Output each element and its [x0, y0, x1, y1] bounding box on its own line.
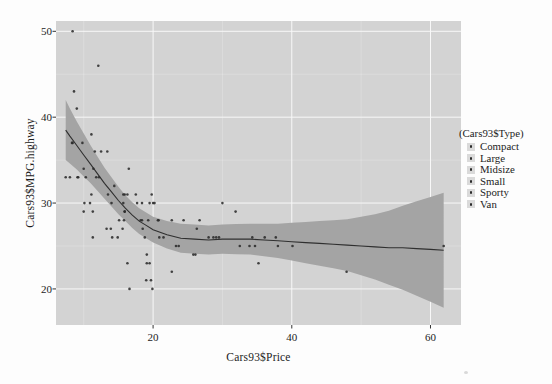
data-point: [158, 236, 161, 239]
data-point: [118, 219, 121, 222]
legend-item-label: Van: [480, 199, 497, 211]
data-point: [90, 133, 93, 136]
legend: (Cars93$Type) CompactLargeMidsizeSmallSp…: [459, 127, 551, 210]
data-point: [218, 236, 221, 239]
data-point: [98, 176, 101, 179]
data-point: [139, 219, 142, 222]
data-point: [263, 236, 266, 239]
point-key-icon: [470, 191, 473, 194]
data-point: [110, 228, 113, 231]
legend-items: CompactLargeMidsizeSmallSportyVan: [467, 141, 551, 210]
legend-key-box: [467, 189, 475, 197]
data-point: [116, 236, 119, 239]
point-key-icon: [470, 145, 473, 148]
data-point: [239, 245, 242, 248]
data-point: [157, 219, 160, 222]
legend-key-box: [467, 177, 475, 185]
data-point: [89, 202, 92, 205]
x-axis-title: Cars93$Price: [56, 351, 461, 363]
point-key-icon: [470, 157, 473, 160]
data-point: [110, 202, 113, 205]
data-point: [81, 142, 84, 145]
data-point: [121, 228, 124, 231]
data-point: [97, 64, 100, 67]
data-point: [196, 228, 199, 231]
data-point: [71, 142, 74, 145]
data-point: [122, 193, 125, 196]
data-point: [291, 245, 294, 248]
data-point: [254, 245, 257, 248]
data-point: [92, 210, 95, 213]
y-axis-title: Cars93$MPG.highway: [24, 93, 38, 253]
data-point: [148, 202, 151, 205]
data-point: [177, 245, 180, 248]
data-point: [126, 262, 129, 265]
data-point: [94, 150, 97, 153]
print-artifact: [464, 371, 468, 374]
legend-item-compact: Compact: [467, 141, 551, 153]
data-point: [126, 193, 129, 196]
x-tick-label: 60: [425, 331, 437, 343]
data-point: [257, 262, 260, 265]
data-point: [92, 236, 95, 239]
data-point: [141, 202, 144, 205]
y-tick-label: 40: [41, 111, 53, 123]
data-point: [76, 107, 79, 110]
data-point: [150, 279, 153, 282]
data-point: [145, 279, 148, 282]
data-point: [175, 245, 178, 248]
data-point: [162, 236, 165, 239]
legend-key-box: [467, 143, 475, 151]
data-point: [212, 236, 215, 239]
x-tick-label: 20: [148, 331, 160, 343]
legend-item-midsize: Midsize: [467, 164, 551, 176]
data-point: [144, 236, 147, 239]
data-point: [100, 150, 103, 153]
data-point: [182, 219, 185, 222]
data-point: [194, 253, 197, 256]
data-point: [171, 271, 174, 274]
data-point: [107, 193, 110, 196]
legend-title: (Cars93$Type): [459, 127, 551, 139]
legend-key-box: [467, 200, 475, 208]
data-point: [64, 176, 67, 179]
data-point: [148, 262, 151, 265]
legend-key-box: [467, 154, 475, 162]
data-point: [113, 185, 116, 188]
legend-item-van: Van: [467, 199, 551, 211]
data-point: [95, 176, 98, 179]
data-point: [345, 271, 348, 274]
legend-item-label: Midsize: [480, 164, 515, 176]
data-point: [215, 236, 218, 239]
plot-figure: 20406020304050 Cars93$MPG.highway Cars93…: [0, 0, 552, 384]
data-point: [128, 288, 131, 291]
data-point: [152, 202, 155, 205]
data-point: [123, 219, 126, 222]
data-point: [69, 176, 72, 179]
data-point: [198, 219, 201, 222]
data-point: [90, 193, 93, 196]
data-point: [151, 288, 154, 291]
data-point: [83, 202, 86, 205]
data-point: [277, 245, 280, 248]
legend-item-label: Compact: [480, 141, 519, 153]
data-point: [135, 193, 138, 196]
data-point: [207, 236, 210, 239]
data-point: [248, 245, 251, 248]
data-point: [234, 210, 237, 213]
data-point: [122, 202, 125, 205]
data-point: [146, 262, 149, 265]
data-point: [82, 167, 85, 170]
data-point: [171, 219, 174, 222]
data-point: [128, 167, 131, 170]
y-tick-label: 20: [41, 283, 53, 295]
data-point: [111, 236, 114, 239]
data-point: [147, 219, 150, 222]
legend-item-sporty: Sporty: [467, 187, 551, 199]
point-key-icon: [470, 180, 473, 183]
point-key-icon: [470, 168, 473, 171]
data-point: [92, 167, 95, 170]
point-key-icon: [470, 203, 473, 206]
data-point: [146, 253, 149, 256]
data-point: [275, 236, 278, 239]
